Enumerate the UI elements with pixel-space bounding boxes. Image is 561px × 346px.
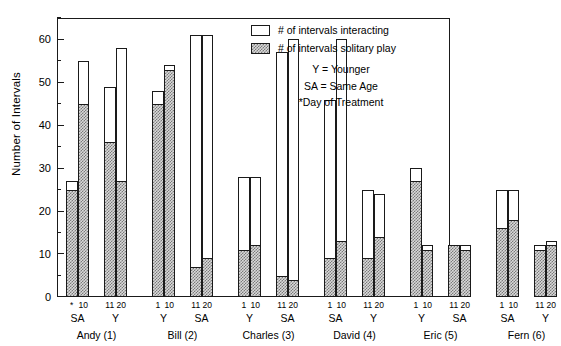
y-tick-major [57,82,64,83]
y-tick-major [57,253,64,254]
bar-interacting [152,91,164,297]
x-age-label: SA [182,313,222,324]
bar-interacting [190,35,202,297]
x-day-label: 20 [279,301,307,310]
bar-solitary-play [324,258,336,297]
x-subject-label: Eric (5) [401,330,481,341]
bar-solitary-play [546,245,558,297]
bar-solitary-play [508,220,520,297]
bar-solitary-play [288,280,300,297]
x-age-label: SA [316,313,356,324]
y-tick-major [57,211,64,212]
x-day-label: 20 [537,301,561,310]
x-age-label: Y [526,313,561,324]
x-day-label: 10 [241,301,269,310]
legend-note: SA = Same Age [255,81,427,92]
bar-interacting [496,190,508,297]
legend-item: # of intervals solitary play [251,42,447,55]
x-day-label: 10 [499,301,527,310]
bar-interacting [250,177,262,297]
legend-swatch-hatched-icon [251,43,270,54]
x-age-label: SA [440,313,480,324]
y-tick-minor [57,103,61,104]
legend-note: *Day of Treatment [255,97,427,108]
chart-legend: # of intervals interacting# of intervals… [251,24,447,114]
legend-items: # of intervals interacting# of intervals… [251,24,447,55]
bar-solitary-play [534,250,546,297]
y-tick-major [57,125,64,126]
bar-solitary-play [250,245,262,297]
y-tick-label: 50 [17,77,51,88]
y-tick-minor [57,17,61,18]
x-age-label: Y [402,313,442,324]
bar-interacting [78,61,90,297]
x-day-label: 10 [69,301,97,310]
x-day-label: 20 [451,301,479,310]
y-tick-major [57,168,64,169]
x-age-label: SA [58,313,98,324]
bar-solitary-play [164,70,176,297]
y-tick-minor [57,146,61,147]
legend-note: Y = Younger [255,64,427,75]
bar-solitary-play [238,250,250,297]
bar-interacting [164,65,176,297]
y-tick-label: 0 [17,292,51,303]
x-subject-label: Charles (3) [229,330,309,341]
bar-interacting [410,168,422,297]
y-tick-label: 40 [17,120,51,131]
x-age-label: Y [96,313,136,324]
bar-solitary-play [410,181,422,297]
bar-solitary-play [276,276,288,297]
x-subject-label: Andy (1) [57,330,137,341]
x-subject-label: Fern (6) [487,330,561,341]
y-tick-label: 20 [17,206,51,217]
bar-interacting [508,190,520,297]
bar-interacting [202,35,214,297]
legend-label: # of intervals interacting [278,25,389,36]
bar-solitary-play [374,237,386,297]
y-tick-major [57,296,64,297]
bar-interacting [104,87,116,297]
x-day-label: 10 [413,301,441,310]
bar-interacting [238,177,250,297]
y-tick-major [57,39,64,40]
bar-solitary-play [422,250,434,297]
bar-interacting [422,245,434,297]
x-subject-label: David (4) [315,330,395,341]
x-subject-label: Bill (2) [143,330,223,341]
bar-interacting [116,48,128,297]
bar-interacting [534,245,546,297]
x-age-label: Y [354,313,394,324]
legend-label: # of intervals solitary play [278,43,396,54]
bar-interacting [546,241,558,297]
bar-solitary-play [336,241,348,297]
bar-solitary-play [190,267,202,297]
y-tick-minor [57,60,61,61]
legend-notes: Y = YoungerSA = Same Age*Day of Treatmen… [251,64,447,108]
bar-solitary-play [460,250,472,297]
bar-solitary-play [116,181,128,297]
bar-solitary-play [448,245,460,297]
bar-interacting [66,181,78,297]
x-day-label: 20 [365,301,393,310]
bar-solitary-play [66,190,78,297]
bar-solitary-play [362,258,374,297]
bar-solitary-play [152,104,164,297]
bar-solitary-play [78,104,90,297]
y-tick-minor [57,189,61,190]
x-day-label: 10 [327,301,355,310]
bar-interacting [362,190,374,297]
bar-interacting [448,245,460,297]
bar-solitary-play [496,228,508,297]
x-age-label: Y [144,313,184,324]
x-day-label: 20 [193,301,221,310]
bar-solitary-play [104,142,116,297]
bar-interacting [460,245,472,297]
bar-interacting [324,100,336,297]
y-tick-minor [57,232,61,233]
x-age-label: SA [488,313,528,324]
y-tick-minor [57,275,61,276]
x-day-label: 20 [107,301,135,310]
y-tick-label: 10 [17,249,51,260]
